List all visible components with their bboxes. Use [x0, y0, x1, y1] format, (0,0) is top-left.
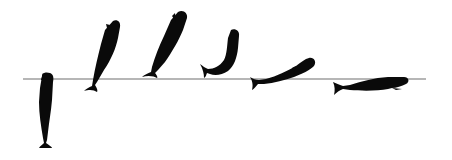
whale-breach-illustration — [0, 0, 452, 160]
